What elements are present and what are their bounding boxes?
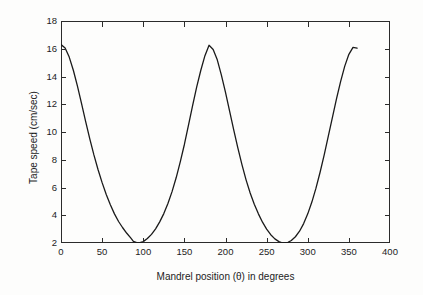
x-axis-title: Mandrel position (θ) in degrees (61, 271, 390, 282)
x-tick-label: 50 (82, 246, 122, 257)
chart-figure: 24681012141618 050100150200250300350400 … (0, 0, 423, 295)
x-tick-mark-top (349, 22, 350, 27)
x-tick-label: 200 (206, 246, 246, 257)
x-tick-mark-top (143, 22, 144, 27)
x-tick-label: 100 (123, 246, 163, 257)
x-tick-mark (308, 238, 309, 243)
y-tick-mark-right (385, 160, 390, 161)
x-tick-mark (226, 238, 227, 243)
x-tick-mark-top (308, 22, 309, 27)
y-tick-mark (61, 132, 66, 133)
x-tick-label: 350 (329, 246, 369, 257)
x-tick-label: 150 (164, 246, 204, 257)
x-tick-label: 400 (370, 246, 410, 257)
x-tick-label: 0 (41, 246, 81, 257)
plot-area (61, 21, 390, 243)
x-tick-label: 250 (247, 246, 287, 257)
tape-speed-curve (61, 21, 390, 243)
y-tick-mark (61, 104, 66, 105)
y-tick-mark (61, 215, 66, 216)
x-tick-mark-top (102, 22, 103, 27)
y-tick-label: 18 (35, 16, 57, 26)
x-tick-mark (102, 238, 103, 243)
y-tick-mark (61, 77, 66, 78)
y-axis-title: Tape speed (cm/sec) (28, 38, 39, 238)
y-tick-mark-right (385, 77, 390, 78)
y-tick-mark-right (385, 215, 390, 216)
y-tick-mark-right (385, 188, 390, 189)
x-tick-mark-top (267, 22, 268, 27)
x-axis-tick-labels: 050100150200250300350400 (0, 246, 423, 260)
x-tick-mark-top (226, 22, 227, 27)
y-tick-mark (61, 49, 66, 50)
y-tick-mark-right (385, 104, 390, 105)
y-tick-mark-right (385, 49, 390, 50)
y-tick-mark (61, 188, 66, 189)
x-tick-mark (349, 238, 350, 243)
x-tick-label: 300 (288, 246, 328, 257)
x-tick-mark (267, 238, 268, 243)
y-tick-mark-right (385, 132, 390, 133)
y-tick-mark (61, 160, 66, 161)
x-tick-mark (143, 238, 144, 243)
x-tick-mark-top (184, 22, 185, 27)
x-tick-mark (184, 238, 185, 243)
